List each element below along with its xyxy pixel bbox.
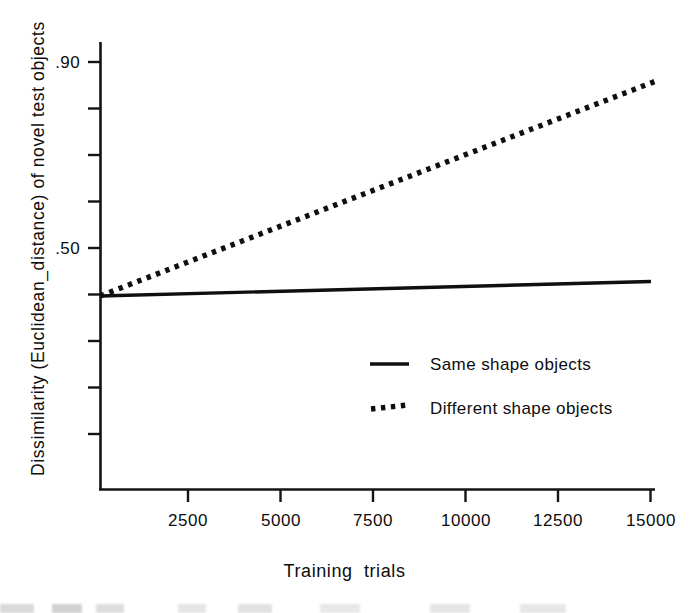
series-line-different-shape-objects: [100, 81, 656, 296]
legend-label-different-shape-objects: Different shape objects: [430, 400, 613, 417]
x-axis-title: Training trials: [0, 562, 689, 580]
x-tick-label-4: 12500: [513, 512, 603, 529]
x-tick-label-2: 7500: [333, 512, 413, 529]
legend-swatch-different-shape-objects: [371, 405, 408, 409]
x-tick-label-0: 2500: [148, 512, 228, 529]
x-tick-label-1: 5000: [241, 512, 321, 529]
y-axis-title: Dissimilarity (Euclidean_distance) of no…: [30, 21, 48, 476]
y-axis-ticks: [88, 62, 101, 434]
series-line-same-shape-objects: [100, 282, 651, 297]
x-axis-ticks: [188, 489, 651, 502]
x-tick-label-3: 10000: [421, 512, 511, 529]
legend-label-same-shape-objects: Same shape objects: [430, 356, 591, 373]
x-tick-label-5: 15000: [606, 512, 689, 529]
figure-chart-dissimilarity-vs-training-trials: .90 .50 2500 5000 7500 10000 12500 15000…: [0, 0, 689, 613]
